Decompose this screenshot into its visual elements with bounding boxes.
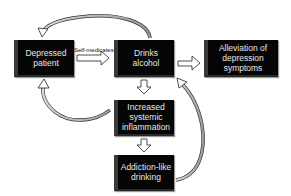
node-label: Alleviation of depression symptoms	[208, 43, 278, 73]
arrow-to-inflammation	[137, 80, 151, 94]
curved-arrow-addiction-to-drinks	[176, 78, 203, 180]
node-label: Drinks alcohol	[118, 48, 174, 68]
curved-arrow-feedback-top	[38, 16, 150, 38]
arrow-self-medicates	[77, 51, 109, 65]
edge-label-self-medicates: Self-medicates	[74, 47, 114, 53]
node-alleviation: Alleviation of depression symptoms	[204, 40, 278, 77]
node-depressed-patient: Depressed patient	[14, 40, 74, 77]
node-inflammation: Increased systemic inflammation	[114, 100, 174, 136]
arrow-to-alleviation	[178, 56, 200, 70]
node-addiction: Addiction-like drinking	[114, 155, 174, 191]
node-label: Depressed patient	[18, 48, 74, 68]
node-label: Addiction-like drinking	[118, 162, 174, 182]
arrow-to-addiction	[137, 139, 151, 152]
node-label: Increased systemic inflammation	[118, 102, 174, 132]
curved-arrow-inflammation-to-patient	[38, 79, 110, 120]
node-drinks-alcohol: Drinks alcohol	[114, 40, 174, 77]
